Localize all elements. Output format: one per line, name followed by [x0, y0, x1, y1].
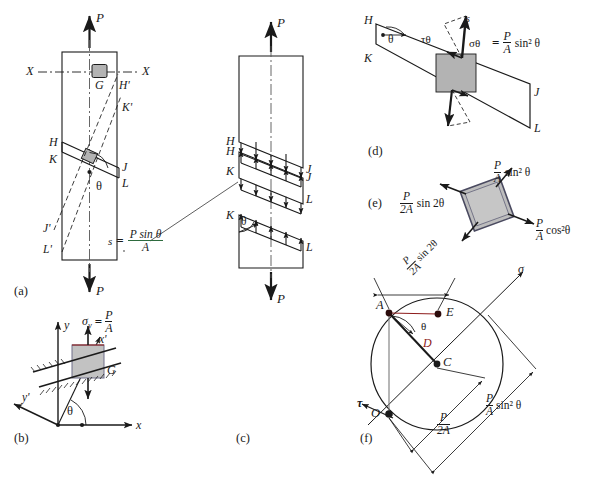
- element-d: [436, 54, 476, 92]
- axis-label-x-b: x: [136, 418, 141, 433]
- factor-right-e: cos²θ: [546, 224, 570, 236]
- load-label-top-c: P: [277, 15, 285, 31]
- figure-vector-graphics: [0, 0, 597, 492]
- stress-arrow-right-e: [508, 214, 534, 224]
- point-label-e-f: E: [446, 305, 454, 320]
- point-label-k-prime-a: K': [122, 101, 132, 113]
- equation-factor-d: sin² θ: [515, 37, 540, 49]
- axis-label-y-b: y: [64, 318, 69, 333]
- figure-canvas: P P X X G H' K' H K J L J' L' θ (a) y x …: [0, 0, 597, 492]
- angle-label-c: θ: [241, 215, 247, 227]
- dim-label-mid-f: P 2A: [437, 412, 450, 436]
- axis-label-y-prime-b: y': [22, 391, 30, 403]
- point-label-l-d: L: [534, 121, 541, 136]
- element-e: [460, 177, 514, 231]
- stress-fraction-b: P A: [105, 309, 112, 334]
- point-e-f: [435, 311, 442, 318]
- point-label-j2-c: J: [306, 170, 311, 185]
- point-label-h2-c: H: [226, 144, 235, 159]
- point-label-j-d: J: [534, 85, 539, 100]
- shear-formula-c: s = P sin θ A: [108, 228, 163, 253]
- point-label-k1-c: K: [226, 164, 234, 179]
- dim-mid-f: [389, 368, 485, 452]
- point-label-k-a: K: [49, 152, 57, 167]
- panel-c-graphics: [150, 22, 303, 300]
- point-label-o-f: O: [371, 406, 380, 421]
- point-label-a-f: A: [376, 298, 384, 313]
- point-label-d-f: D: [423, 336, 432, 351]
- point-c-f: [434, 361, 441, 368]
- element-label-g-b: G: [107, 363, 116, 378]
- point-label-h-prime-a: H': [119, 79, 130, 91]
- panel-label-e: (e): [368, 196, 382, 211]
- point-label-k-d: K: [364, 51, 372, 66]
- load-label-bottom-a: P: [96, 283, 104, 299]
- load-label-top-a: P: [96, 10, 104, 26]
- point-label-c-f: C: [443, 355, 451, 370]
- dim-fraction-mid-f: P 2A: [437, 412, 450, 436]
- fraction-top-e: P A: [494, 160, 501, 184]
- stress-arrow-bottom-e: [462, 222, 478, 241]
- factor-top-e: sin² θ: [505, 166, 530, 178]
- shear-fraction-c: P sin θ A: [128, 228, 164, 253]
- dim-top-f: [374, 278, 455, 310]
- rotated-plane-hj-a: [54, 74, 118, 230]
- axis-label-left-a: X: [26, 64, 34, 79]
- shear-lhs-c: s: [108, 235, 112, 247]
- element-label-g-a: G: [95, 78, 104, 93]
- axis-y-prime-b: [14, 404, 58, 425]
- axis-label-right-a: X: [142, 64, 150, 79]
- normal-stress-label-d: σθ: [469, 37, 480, 49]
- panel-label-b: (b): [14, 431, 29, 446]
- angle-arc-b: [71, 400, 86, 425]
- stress-equation-d: = P A sin² θ: [492, 30, 540, 55]
- point-label-l2-c: L: [306, 240, 313, 255]
- panel-label-c: (c): [236, 431, 250, 446]
- point-a-f: [386, 310, 393, 317]
- panel-f-graphics: [362, 272, 536, 473]
- equation-fraction-d: P A: [503, 30, 510, 55]
- load-label-bottom-c: P: [277, 291, 285, 307]
- shear-stress-label-d: τθ: [421, 33, 431, 45]
- panel-label-d: (d): [368, 144, 383, 159]
- stress-sigma-b: σy: [82, 314, 92, 330]
- point-label-j-a: J: [122, 160, 127, 175]
- angle-label-d: θ: [388, 33, 394, 45]
- point-label-l-prime-a: L': [43, 243, 52, 255]
- angle-vertex-a: [87, 170, 91, 174]
- axis-label-tau-f: τ: [357, 396, 362, 411]
- chord-ae-f: [389, 313, 438, 314]
- angle-label-a: θ: [96, 179, 102, 194]
- resultant-arrow-lower-d: [448, 90, 452, 126]
- factor-left-e: sin 2θ: [417, 197, 445, 209]
- point-o-f: [385, 410, 393, 418]
- dim-factor-right-f: sin² θ: [496, 399, 521, 411]
- point-label-j-prime-a: J': [43, 222, 51, 234]
- point-label-k2-c: K: [226, 208, 234, 223]
- stress-equals-b: =: [95, 314, 102, 330]
- fraction-left-e: P 2A: [400, 191, 413, 215]
- stress-equation-b: σy = P A: [82, 309, 112, 334]
- angle-label-f: θ: [421, 320, 426, 332]
- stress-label-right-e: P A cos²θ: [536, 218, 570, 242]
- panel-label-f: (f): [360, 431, 373, 446]
- point-label-h-a: H: [49, 135, 58, 150]
- element-g-a: [92, 65, 107, 78]
- fraction-right-e: P A: [536, 218, 543, 242]
- angle-label-b: θ: [67, 404, 73, 419]
- point-label-l1-c: L: [306, 192, 313, 207]
- equation-equals-d: =: [492, 35, 499, 51]
- axis-label-sigma-f: σ: [518, 262, 524, 277]
- point-label-h-d: H: [364, 13, 373, 28]
- point-label-l-a: L: [122, 176, 129, 191]
- resultant-label-d: s: [466, 13, 470, 24]
- origin-dot-b: [56, 423, 60, 427]
- stress-label-left-e: P 2A sin 2θ: [400, 191, 444, 215]
- angle-dot-b: [80, 423, 84, 427]
- shear-equals-c: =: [116, 233, 123, 249]
- dim-label-right-f: P A sin² θ: [486, 393, 521, 417]
- panel-label-a: (a): [14, 284, 28, 299]
- stress-label-top-e: P A sin² θ: [494, 160, 530, 184]
- dim-fraction-right-f: P A: [486, 393, 493, 417]
